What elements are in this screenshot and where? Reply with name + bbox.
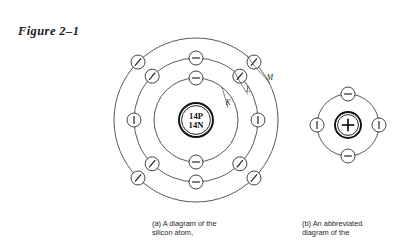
caption-panel-a: (a) A diagram of the silicon atom, — [152, 219, 217, 238]
electron — [145, 69, 159, 83]
electron — [189, 71, 203, 85]
nucleus-neutron-label: 14N — [189, 120, 205, 130]
electron — [131, 55, 145, 69]
shell-label-m: M — [266, 73, 274, 82]
electron — [127, 113, 141, 127]
electron — [247, 171, 261, 185]
electron — [131, 171, 145, 185]
caption-panel-b: (b) An abbreviated diagram of the — [302, 219, 362, 238]
electron — [341, 87, 355, 101]
electron — [247, 55, 261, 69]
electron — [341, 149, 355, 163]
atom-panel-b — [310, 87, 386, 163]
electron — [189, 155, 203, 169]
electron — [251, 113, 265, 127]
electron — [189, 175, 203, 189]
electron — [233, 157, 247, 171]
electron — [145, 157, 159, 171]
electron — [189, 51, 203, 65]
shell-label-l: L — [245, 85, 250, 94]
diagram-stage: 14P14NKLM — [0, 0, 399, 215]
electron — [372, 118, 386, 132]
figure-container: Figure 2–1 14P14NKLM (a) A diagram of th… — [0, 0, 399, 243]
atom-diagram-svg: 14P14NKLM — [0, 0, 399, 215]
electron — [310, 118, 324, 132]
atom-panel-a: 14P14NKLM — [114, 38, 278, 202]
